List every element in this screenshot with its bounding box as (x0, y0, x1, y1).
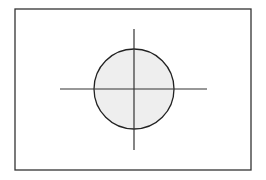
diagram-canvas (0, 0, 266, 180)
